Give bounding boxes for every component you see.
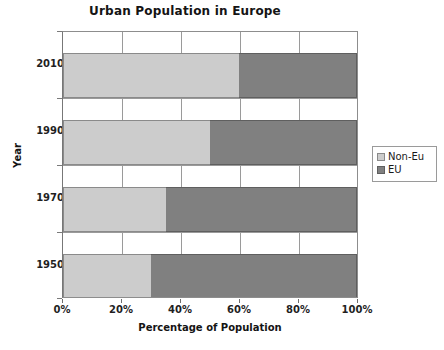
bar-row-1990[interactable]: [63, 120, 357, 165]
x-tick-mark-20: [121, 299, 122, 303]
bar-row-1970[interactable]: [63, 187, 357, 232]
bar-segment-1950-eu[interactable]: [151, 254, 357, 297]
bar-row-2010[interactable]: [63, 53, 357, 98]
bar-segment-2010-eu[interactable]: [239, 53, 357, 98]
bar-segment-1950-non-eu[interactable]: [63, 254, 151, 297]
y-tick-label-2010: 2010: [24, 58, 64, 69]
plot-area: [62, 31, 358, 298]
x-tick-label-40: 40%: [168, 304, 192, 315]
y-tick-label-1970: 1970: [24, 192, 64, 203]
x-tick-label-20: 20%: [109, 304, 133, 315]
bar-row-1950[interactable]: [63, 254, 357, 297]
y-tick-label-1990: 1990: [24, 125, 64, 136]
gridline-horizontal-6: [63, 232, 357, 233]
x-axis-title: Percentage of Population: [62, 322, 358, 333]
legend-swatch-icon-eu: [377, 166, 385, 174]
legend-swatch-icon-non-eu: [377, 153, 385, 161]
x-tick-label-100: 100%: [342, 304, 373, 315]
x-tick-mark-60: [239, 299, 240, 303]
legend-item-eu[interactable]: EU: [377, 164, 433, 175]
bar-segment-1990-eu[interactable]: [210, 120, 357, 165]
chart-title: Urban Population in Europe: [0, 4, 370, 18]
x-tick-mark-80: [298, 299, 299, 303]
legend-label-non-eu: Non-Eu: [388, 151, 424, 162]
gridline-horizontal-4: [63, 165, 357, 166]
x-tick-label-0: 0%: [54, 304, 71, 315]
gridline-horizontal-2: [63, 98, 357, 99]
x-tick-label-80: 80%: [286, 304, 310, 315]
bar-segment-2010-non-eu[interactable]: [63, 53, 239, 98]
x-tick-mark-0: [62, 299, 63, 303]
bar-segment-1970-eu[interactable]: [166, 187, 357, 232]
x-tick-mark-40: [180, 299, 181, 303]
plot-inner: [63, 32, 357, 297]
x-tick-label-60: 60%: [227, 304, 251, 315]
legend-item-non-eu[interactable]: Non-Eu: [377, 151, 433, 162]
chart-legend[interactable]: Non-Eu EU: [372, 146, 437, 182]
y-axis-title: Year: [12, 126, 23, 186]
legend-label-eu: EU: [388, 164, 402, 175]
y-tick-label-1950: 1950: [24, 259, 64, 270]
x-tick-mark-100: [357, 299, 358, 303]
bar-segment-1990-non-eu[interactable]: [63, 120, 210, 165]
bar-segment-1970-non-eu[interactable]: [63, 187, 166, 232]
